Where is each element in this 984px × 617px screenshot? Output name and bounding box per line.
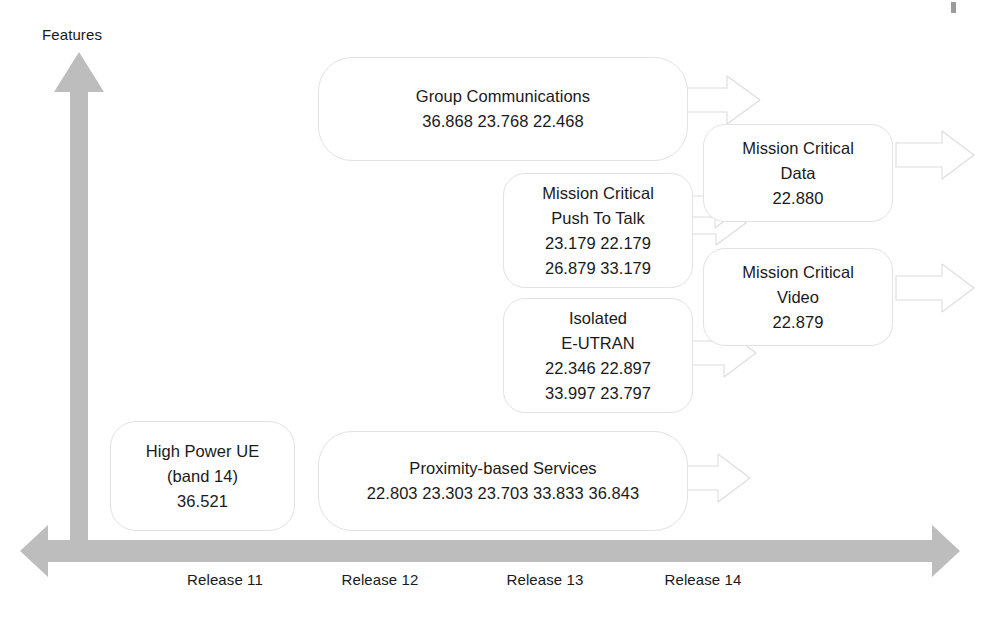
node-group-communications[interactable]: Group Communications 36.868 23.768 22.46… — [318, 57, 688, 161]
node-line: 26.879 33.179 — [545, 256, 651, 281]
node-line: 36.868 23.768 22.468 — [422, 109, 584, 134]
arrow-prose-to-beyond — [679, 454, 750, 502]
node-line: Data — [780, 161, 815, 186]
diagram-canvas: Features Group Communications 36.868 23.… — [0, 0, 984, 617]
y-axis-label: Features — [42, 26, 102, 43]
node-line: 22.880 — [773, 186, 824, 211]
scan-artifact-mark — [951, 2, 956, 13]
node-line: Video — [777, 285, 819, 310]
node-line: Mission Critical — [742, 136, 854, 161]
x-axis-tick-release-11: Release 11 — [155, 571, 295, 588]
node-line: 22.346 22.897 — [545, 356, 651, 381]
node-line: Mission Critical — [542, 181, 654, 206]
y-axis-arrow — [54, 52, 104, 548]
node-line: 23.179 22.179 — [545, 231, 651, 256]
node-mission-critical-video[interactable]: Mission Critical Video 22.879 — [703, 248, 893, 346]
node-line: Proximity-based Services — [409, 456, 596, 481]
node-line: Push To Talk — [551, 206, 645, 231]
node-line: (band 14) — [167, 464, 238, 489]
node-mission-critical-data[interactable]: Mission Critical Data 22.880 — [703, 124, 893, 222]
node-line: Isolated — [569, 306, 627, 331]
x-axis-tick-release-13: Release 13 — [475, 571, 615, 588]
node-proximity-based-services[interactable]: Proximity-based Services 22.803 23.303 2… — [318, 431, 688, 531]
node-line: Mission Critical — [742, 260, 854, 285]
node-mission-critical-push-to-talk[interactable]: Mission Critical Push To Talk 23.179 22.… — [503, 173, 693, 288]
node-line: 36.521 — [177, 489, 228, 514]
node-line: High Power UE — [146, 439, 259, 464]
node-line: Group Communications — [416, 84, 590, 109]
arrow-mcdata-to-beyond — [896, 131, 974, 179]
x-axis-tick-release-14: Release 14 — [633, 571, 773, 588]
arrow-mcvideo-to-beyond — [896, 264, 974, 312]
node-isolated-e-utran[interactable]: Isolated E-UTRAN 22.346 22.897 33.997 23… — [503, 298, 693, 413]
node-line: 22.803 23.303 23.703 33.833 36.843 — [367, 481, 639, 506]
x-axis-tick-release-12: Release 12 — [310, 571, 450, 588]
node-line: 22.879 — [773, 310, 824, 335]
node-line: E-UTRAN — [561, 331, 635, 356]
x-axis-arrow — [20, 525, 960, 577]
node-high-power-ue[interactable]: High Power UE (band 14) 36.521 — [110, 421, 295, 531]
node-line: 33.997 23.797 — [545, 381, 651, 406]
